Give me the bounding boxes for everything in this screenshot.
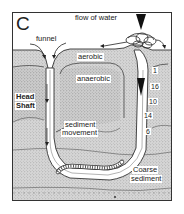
depth-marker: 16 bbox=[150, 83, 160, 90]
depth-marker: 6 bbox=[145, 128, 151, 135]
head-shaft-label-line1: Head bbox=[15, 93, 35, 101]
head-shaft-label-line2: Shaft bbox=[15, 102, 36, 110]
aerobic-label: aerobic bbox=[77, 53, 104, 61]
depth-marker: 14 bbox=[143, 112, 153, 119]
depth-marker: 1 bbox=[152, 67, 158, 74]
depth-marker: 10 bbox=[148, 98, 158, 105]
coarse-sediment-label-line1: Coarse bbox=[132, 166, 158, 174]
panel-label: C bbox=[16, 14, 30, 33]
sediment-movement-label-line2: movement bbox=[61, 129, 98, 137]
anaerobic-label: anaerobic bbox=[76, 75, 111, 83]
burrow-diagram: C flow of water funnel aerobic anaerobic… bbox=[0, 0, 184, 214]
funnel-label: funnel bbox=[35, 35, 57, 43]
flow-of-water-label: flow of water bbox=[74, 14, 118, 22]
coarse-sediment-label-line2: sediment bbox=[130, 175, 162, 183]
